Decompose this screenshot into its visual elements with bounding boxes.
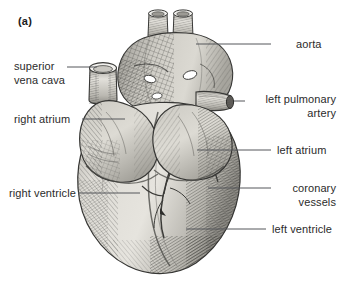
- label-superior-vena-cava-line2: vena cava: [14, 73, 65, 87]
- label-right-ventricle: right ventricle: [9, 186, 76, 200]
- label-superior-vena-cava: superior vena cava: [14, 59, 65, 87]
- label-left-ventricle: left ventricle: [272, 222, 332, 236]
- label-left-pulmonary-artery-line1: left pulmonary: [266, 92, 337, 106]
- label-coronary-vessels-line1: coronary: [292, 181, 336, 195]
- heart-anatomy-figure: (a) superior vena cava right atrium righ…: [0, 0, 344, 284]
- panel-label: (a): [18, 15, 32, 27]
- label-left-pulmonary-artery: left pulmonary artery: [266, 92, 337, 120]
- label-aorta-line1: aorta: [296, 37, 322, 51]
- label-left-atrium: left atrium: [277, 143, 326, 157]
- heart-illustration: [0, 0, 344, 284]
- label-right-ventricle-line1: right ventricle: [9, 186, 76, 200]
- label-left-ventricle-line1: left ventricle: [272, 222, 332, 236]
- label-aorta: aorta: [296, 37, 322, 51]
- label-right-atrium: right atrium: [14, 112, 70, 126]
- label-coronary-vessels-line2: vessels: [292, 195, 336, 209]
- label-right-atrium-line1: right atrium: [14, 112, 70, 126]
- superior-vena-cava-stump: [89, 63, 117, 105]
- label-coronary-vessels: coronary vessels: [292, 181, 336, 209]
- label-left-pulmonary-artery-line2: artery: [266, 106, 337, 120]
- label-left-atrium-line1: left atrium: [277, 143, 326, 157]
- label-superior-vena-cava-line1: superior: [14, 59, 65, 73]
